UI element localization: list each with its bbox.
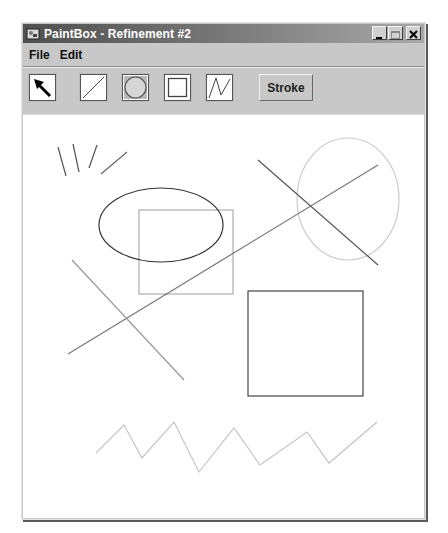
maximize-icon — [389, 29, 402, 41]
polyline-tool-button[interactable] — [206, 74, 233, 101]
canvas-shape-line[interactable] — [72, 260, 184, 380]
drawing-canvas[interactable] — [23, 114, 424, 518]
stroke-button[interactable]: Stroke — [259, 74, 313, 101]
toolbar: Stroke — [23, 67, 424, 114]
minimize-button[interactable] — [372, 26, 387, 40]
canvas-shape-polyline[interactable] — [96, 422, 377, 472]
canvas-shape-line[interactable] — [58, 147, 66, 176]
window-controls — [372, 26, 421, 40]
rectangle-icon — [165, 75, 190, 100]
canvas-shape-line[interactable] — [68, 165, 378, 354]
maximize-button[interactable] — [388, 26, 403, 40]
oval-tool-button[interactable] — [122, 74, 149, 101]
line-tool-button[interactable] — [80, 74, 107, 101]
arrow-pointer-icon — [30, 75, 55, 100]
window-title: PaintBox - Refinement #2 — [44, 27, 191, 41]
canvas-shape-line[interactable] — [101, 152, 127, 174]
title-bar[interactable]: PaintBox - Refinement #2 — [23, 24, 424, 43]
paintbox-app-icon[interactable] — [26, 27, 40, 41]
menu-bar: File Edit — [23, 44, 424, 67]
canvas-shape-line[interactable] — [73, 144, 79, 172]
line-icon — [81, 75, 106, 100]
select-tool-button[interactable] — [29, 74, 56, 101]
close-icon — [407, 29, 420, 41]
rectangle-tool-button[interactable] — [164, 74, 191, 101]
canvas-drawing — [23, 115, 424, 518]
canvas-shape-rect[interactable] — [248, 291, 363, 396]
menu-file[interactable]: File — [23, 48, 55, 62]
menu-edit[interactable]: Edit — [55, 48, 88, 62]
canvas-shape-ellipse[interactable] — [297, 138, 399, 260]
canvas-shape-line[interactable] — [89, 145, 97, 168]
paintbox-window: PaintBox - Refinement #2 File Edit — [21, 22, 426, 520]
canvas-shape-ellipse[interactable] — [99, 188, 223, 262]
close-button[interactable] — [406, 26, 421, 40]
oval-icon — [123, 75, 148, 100]
minimize-icon — [373, 29, 386, 41]
polyline-icon — [207, 75, 232, 100]
